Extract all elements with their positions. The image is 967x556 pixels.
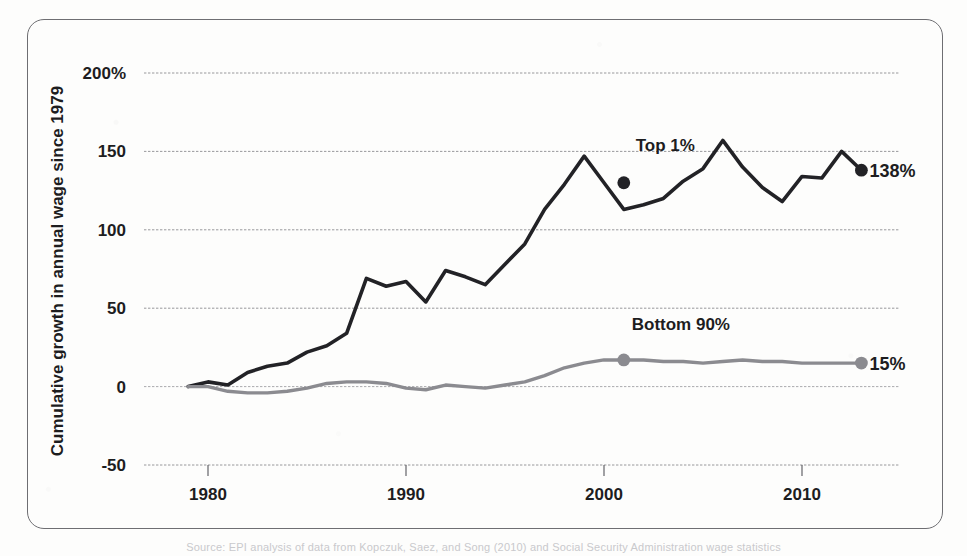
y-tick-label-150: 150 bbox=[98, 142, 126, 161]
y-axis-title: Cumulative growth in annual wage since 1… bbox=[48, 86, 67, 456]
series-lines-group bbox=[188, 140, 861, 392]
data-point-marker bbox=[855, 357, 868, 370]
y-tick-label--50: -50 bbox=[101, 456, 126, 475]
series-label-top-1-: Top 1% bbox=[636, 136, 695, 155]
series-line-top-1- bbox=[188, 140, 861, 386]
series-line-bottom-90- bbox=[188, 360, 861, 393]
chart-page: -50050100150200% 1980199020002010 Top 1%… bbox=[0, 0, 967, 556]
x-tick-label-1980: 1980 bbox=[189, 485, 227, 504]
y-tick-label-200: 200% bbox=[83, 64, 126, 83]
data-point-marker bbox=[855, 164, 868, 177]
x-tick-labels-group: 1980199020002010 bbox=[189, 485, 821, 504]
end-value-label-top-1-: 138% bbox=[869, 161, 915, 181]
data-point-marker bbox=[617, 354, 630, 367]
x-tick-label-2010: 2010 bbox=[783, 485, 821, 504]
x-tickmarks-group bbox=[208, 465, 802, 476]
end-value-label-bottom-90-: 15% bbox=[869, 354, 905, 374]
data-point-marker bbox=[617, 176, 630, 189]
line-chart: -50050100150200% 1980199020002010 Top 1%… bbox=[0, 0, 967, 556]
gridlines-group bbox=[144, 73, 900, 465]
series-markers-group bbox=[617, 164, 867, 370]
y-axis-title-group: Cumulative growth in annual wage since 1… bbox=[48, 86, 67, 456]
series-labels-group: Top 1%138%Bottom 90%15% bbox=[632, 136, 916, 374]
x-tick-label-1990: 1990 bbox=[387, 485, 425, 504]
source-note: Source: EPI analysis of data from Kopczu… bbox=[0, 541, 967, 556]
y-tick-label-0: 0 bbox=[117, 378, 126, 397]
y-tick-label-50: 50 bbox=[107, 299, 126, 318]
y-tick-labels-group: -50050100150200% bbox=[83, 64, 126, 475]
y-tick-label-100: 100 bbox=[98, 221, 126, 240]
series-label-bottom-90-: Bottom 90% bbox=[632, 315, 730, 334]
x-tick-label-2000: 2000 bbox=[585, 485, 623, 504]
